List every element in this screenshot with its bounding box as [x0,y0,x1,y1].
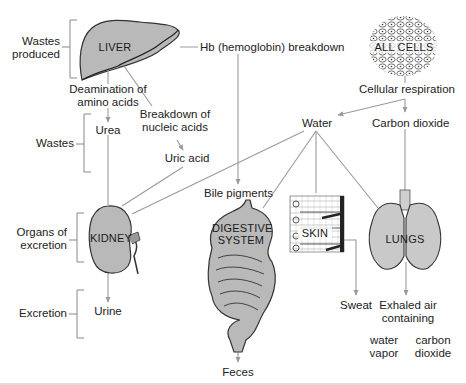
label-water-vapor: water vapor [364,334,404,360]
label-wastes: Wastes [20,137,74,150]
lungs-illustration [369,190,441,269]
label-cellular-respiration: Cellular respiration [352,83,462,96]
bracket-excretion [69,290,84,338]
label-organs-of-excretion: Organs of excretion [4,226,67,252]
label-hb-breakdown: Hb (hemoglobin) breakdown [200,41,344,54]
label-carbon-dioxide-exhaled: carbon dioxide [410,334,456,360]
label-excretion: Excretion [4,307,67,320]
label-water: Water [300,117,334,130]
label-carbon-dioxide: Carbon dioxide [372,117,448,130]
lungs-label: LUNGS [380,233,430,245]
label-exhaled-air: Exhaled air containing [376,299,440,325]
label-uric-acid: Uric acid [160,152,214,165]
label-sweat: Sweat [336,299,376,312]
label-urea: Urea [90,124,126,137]
label-deamination: Deamination of amino acids [66,83,150,109]
bracket-wastes [76,114,91,172]
label-urine: Urine [90,305,126,318]
label-bile-pigments: Bile pigments [204,187,272,200]
liver-label: LIVER [90,41,140,53]
label-feces: Feces [218,366,258,379]
bracket-organs [69,213,84,262]
label-nucleic-breakdown: Breakdown of nucleic acids [130,108,220,134]
label-wastes-produced: Wastes produced [4,35,60,61]
kidney-label: KIDNEY [88,232,134,244]
digestive-label-line1: DIGESTIVE [212,222,270,234]
digestive-label-line2: SYSTEM [212,234,270,246]
bracket-wastes-produced [62,20,77,78]
skin-label: SKIN [298,227,332,239]
all-cells-label: ALL CELLS [370,41,438,53]
skin-illustration [290,196,344,252]
